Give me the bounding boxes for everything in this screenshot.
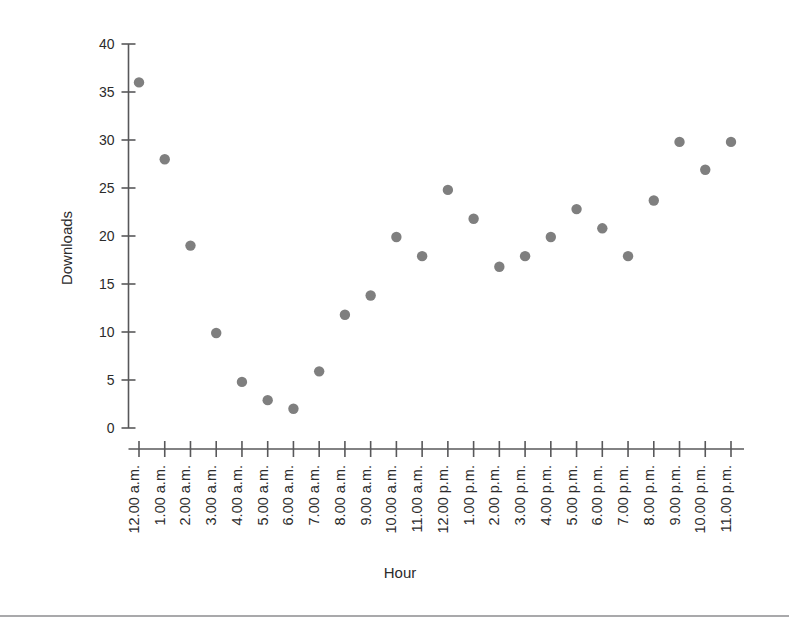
x-tick-label: 7.00 a.m. <box>306 465 322 525</box>
x-tick-label: 9.00 p.m. <box>667 465 683 525</box>
x-tick-label: 2.00 a.m. <box>177 465 193 525</box>
x-axis-tick-labels: 12.00 a.m.1.00 a.m.2.00 a.m.3.00 a.m.4.0… <box>126 465 734 534</box>
x-axis-title: Hour <box>384 564 417 581</box>
x-tick-label: 2.00 p.m. <box>486 465 502 525</box>
data-point <box>674 137 684 147</box>
x-tick-label: 1.00 p.m. <box>461 465 477 525</box>
x-tick-label: 11.00 p.m. <box>718 465 734 532</box>
y-tick-label: 25 <box>99 180 115 196</box>
data-point <box>160 154 170 164</box>
x-tick-label: 10.00 a.m. <box>383 465 399 534</box>
x-tick-label: 3.00 p.m. <box>512 465 528 525</box>
data-point <box>571 204 581 214</box>
data-point <box>365 290 375 300</box>
data-point <box>623 251 633 261</box>
data-point <box>700 165 710 175</box>
x-tick-label: 8.00 a.m. <box>332 465 348 525</box>
data-points <box>134 77 736 414</box>
x-tick-label: 8.00 p.m. <box>641 465 657 525</box>
data-point <box>211 328 221 338</box>
x-tick-label: 10.00 p.m. <box>692 465 708 534</box>
data-point <box>649 195 659 205</box>
data-point <box>185 240 195 250</box>
data-point <box>340 310 350 320</box>
y-tick-label: 5 <box>107 372 115 388</box>
data-point <box>546 232 556 242</box>
data-point <box>520 251 530 261</box>
y-tick-label: 15 <box>99 276 115 292</box>
data-point <box>262 395 272 405</box>
data-point <box>314 366 324 376</box>
data-point <box>288 404 298 414</box>
data-point <box>726 137 736 147</box>
data-point <box>134 77 144 87</box>
bottom-divider <box>0 615 789 617</box>
x-tick-label: 4.00 a.m. <box>229 465 245 525</box>
y-tick-label: 40 <box>99 36 115 52</box>
x-tick-label: 5.00 a.m. <box>255 465 271 525</box>
data-point <box>237 377 247 387</box>
plot-canvas: 0510152025303540 12.00 a.m.1.00 a.m.2.00… <box>0 0 789 612</box>
y-tick-label: 35 <box>99 84 115 100</box>
x-tick-label: 3.00 a.m. <box>203 465 219 525</box>
y-tick-label: 10 <box>99 324 115 340</box>
x-tick-label: 9.00 a.m. <box>358 465 374 525</box>
y-axis-title: Downloads <box>58 211 75 285</box>
x-tick-label: 6.00 a.m. <box>280 465 296 525</box>
x-tick-label: 12.00 a.m. <box>126 465 142 534</box>
x-tick-label: 4.00 p.m. <box>538 465 554 525</box>
y-tick-label: 20 <box>99 228 115 244</box>
data-point <box>468 214 478 224</box>
x-tick-label: 7.00 p.m. <box>615 465 631 525</box>
scatter-plot-figure: 0510152025303540 12.00 a.m.1.00 a.m.2.00… <box>0 0 789 612</box>
x-tick-label: 5.00 p.m. <box>564 465 580 525</box>
data-point <box>417 251 427 261</box>
x-tick-label: 12.00 p.m. <box>435 465 451 534</box>
y-tick-label: 0 <box>107 420 115 436</box>
data-point <box>443 185 453 195</box>
data-point <box>494 262 504 272</box>
y-tick-label: 30 <box>99 132 115 148</box>
chart-page: 0510152025303540 12.00 a.m.1.00 a.m.2.00… <box>0 0 789 629</box>
x-tick-label: 6.00 p.m. <box>589 465 605 525</box>
y-axis-tick-labels: 0510152025303540 <box>99 36 115 436</box>
x-tick-label: 1.00 a.m. <box>152 465 168 525</box>
x-tick-label: 11.00 a.m. <box>409 465 425 532</box>
data-point <box>597 223 607 233</box>
data-point <box>391 232 401 242</box>
